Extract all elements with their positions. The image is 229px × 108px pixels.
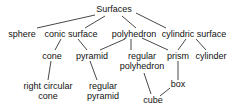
node-right-circular-cone: right circular cone: [23, 81, 72, 101]
edge-regular-polyhedron-cube: [144, 73, 151, 94]
edge-cone-right-circular-cone: [48, 61, 51, 80]
edge-cylindric-surface-prism: [178, 39, 186, 50]
node-sphere: sphere: [8, 29, 36, 39]
edge-surfaces-conic-surface: [85, 16, 105, 28]
node-surfaces: Surfaces: [96, 4, 132, 14]
node-regular-polyhedron-line2: polyhedron: [120, 61, 165, 71]
node-conic-surface: conic surface: [44, 29, 97, 39]
edge-cylindric-surface-cylinder: [196, 39, 206, 50]
node-regular-pyramid: regular pyramid: [87, 81, 119, 101]
edge-surfaces-cylindric-surface: [136, 13, 166, 28]
edge-polyhedron-pyramid: [100, 39, 125, 50]
node-regular-polyhedron-line1: regular: [120, 51, 165, 61]
edge-pyramid-regular-pyramid: [90, 61, 97, 80]
edge-surfaces-sphere: [37, 15, 95, 28]
node-right-circular-cone-line1: right circular: [23, 81, 72, 91]
node-box: box: [171, 79, 186, 89]
edge-surfaces-polyhedron: [122, 16, 136, 28]
node-cone: cone: [42, 51, 62, 61]
node-pyramid: pyramid: [76, 51, 108, 61]
node-prism: prism: [167, 51, 189, 61]
node-regular-pyramid-line1: regular: [87, 81, 119, 91]
edge-conic-surface-cone: [55, 39, 61, 50]
node-right-circular-cone-line2: cone: [23, 91, 72, 101]
node-cube: cube: [143, 95, 163, 105]
node-regular-pyramid-line2: pyramid: [87, 91, 119, 101]
node-cylinder: cylinder: [195, 51, 226, 61]
node-regular-polyhedron: regular polyhedron: [120, 51, 165, 71]
node-polyhedron: polyhedron: [112, 29, 157, 39]
edge-polyhedron-prism: [142, 38, 168, 50]
node-cylindric-surface: cylindric surface: [162, 29, 227, 39]
edge-conic-surface-pyramid: [78, 39, 87, 50]
